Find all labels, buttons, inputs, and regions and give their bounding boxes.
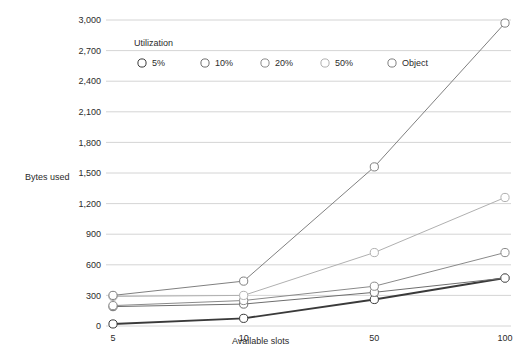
gridlines-group (106, 20, 511, 326)
y-tick-label: 2,400 (78, 76, 101, 86)
data-point-marker (240, 314, 248, 322)
legend-marker-50pct[interactable] (321, 59, 329, 67)
y-tick-label: 2,700 (78, 46, 101, 56)
x-tick-label: 50 (369, 333, 379, 343)
data-point-marker (370, 248, 378, 256)
data-point-marker (109, 320, 117, 328)
series-line-10pct (113, 278, 505, 307)
y-axis-title: Bytes used (25, 172, 70, 182)
data-point-marker (501, 248, 509, 256)
legend-marker-20pct[interactable] (261, 59, 269, 67)
y-axis-tick-labels: 03006009001,2001,5001,8002,1002,4002,700… (78, 15, 101, 331)
legend-label-50pct[interactable]: 50% (335, 58, 353, 68)
data-point-marker (370, 163, 378, 171)
y-tick-label: 900 (86, 229, 101, 239)
y-tick-label: 300 (86, 291, 101, 301)
data-point-marker (109, 291, 117, 299)
data-point-marker (109, 302, 117, 310)
chart-container: 03006009001,2001,5001,8002,1002,4002,700… (0, 0, 516, 356)
y-tick-label: 1,800 (78, 138, 101, 148)
y-tick-label: 600 (86, 260, 101, 270)
legend: 5%10%20%50%Object (138, 58, 429, 68)
legend-label-10pct[interactable]: 10% (215, 58, 233, 68)
series-line-object (113, 23, 505, 295)
data-point-marker (501, 19, 509, 27)
data-point-marker (501, 274, 509, 282)
legend-marker-10pct[interactable] (201, 59, 209, 67)
legend-label-object[interactable]: Object (402, 58, 429, 68)
legend-title: Utilization (134, 38, 173, 48)
line-chart: 03006009001,2001,5001,8002,1002,4002,700… (0, 0, 516, 356)
legend-marker-object[interactable] (388, 59, 396, 67)
y-tick-label: 1,500 (78, 168, 101, 178)
series-line-50pct (113, 197, 505, 296)
data-point-marker (370, 282, 378, 290)
y-tick-label: 2,100 (78, 107, 101, 117)
series-markers-group (109, 19, 509, 328)
x-axis-tick-labels: 51050100 (110, 333, 512, 343)
legend-label-5pct[interactable]: 5% (152, 58, 165, 68)
y-tick-label: 1,200 (78, 199, 101, 209)
y-tick-label: 3,000 (78, 15, 101, 25)
x-tick-label: 100 (497, 333, 512, 343)
series-line-20pct (113, 253, 505, 306)
data-point-marker (501, 193, 509, 201)
x-tick-label: 5 (110, 333, 115, 343)
series-lines-group (113, 23, 505, 324)
y-tick-label: 0 (96, 321, 101, 331)
x-axis-title: Available slots (232, 336, 290, 346)
legend-marker-5pct[interactable] (138, 59, 146, 67)
legend-label-20pct[interactable]: 20% (275, 58, 293, 68)
data-point-marker (240, 291, 248, 299)
data-point-marker (240, 277, 248, 285)
